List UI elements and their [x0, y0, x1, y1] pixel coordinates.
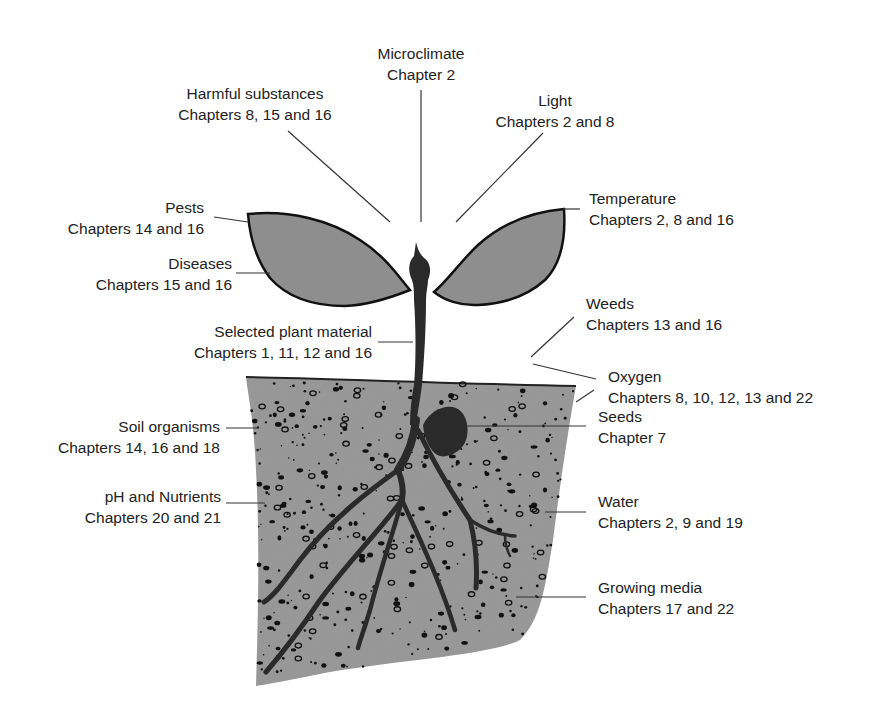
soil-speck — [476, 527, 478, 529]
soil-speck — [546, 544, 548, 546]
label-seeds: Seeds Chapter 7 — [598, 406, 718, 448]
soil-grain — [322, 602, 329, 606]
label-chapters: Chapter 7 — [598, 427, 718, 448]
soil-speck — [417, 648, 419, 650]
soil-grain — [485, 428, 491, 433]
label-chapters: Chapters 20 and 21 — [40, 507, 221, 528]
soil-speck — [461, 496, 463, 498]
leader-weeds — [531, 317, 574, 357]
soil-speck — [309, 637, 311, 639]
leader-light — [456, 133, 543, 222]
soil-grain — [410, 534, 415, 539]
soil-grain — [300, 525, 305, 529]
soil-grain — [362, 536, 366, 541]
soil-speck — [339, 538, 341, 540]
soil-speck — [320, 425, 322, 427]
soil-grain — [422, 633, 428, 638]
soil-speck — [438, 625, 441, 628]
soil-speck — [287, 513, 289, 515]
soil-speck — [263, 617, 265, 619]
soil-grain — [278, 599, 285, 603]
soil-speck — [461, 607, 463, 609]
soil-speck — [405, 597, 406, 598]
soil-grain — [348, 521, 352, 525]
right-leaf — [434, 209, 564, 305]
soil-speck — [329, 514, 331, 516]
soil-speck — [284, 418, 286, 420]
label-name: Harmful substances — [150, 83, 360, 104]
soil-speck — [407, 643, 409, 645]
label-temperature: Temperature Chapters 2, 8 and 16 — [589, 188, 809, 230]
soil-grain — [409, 582, 415, 587]
soil-speck — [261, 668, 263, 670]
soil-grain — [513, 413, 517, 417]
soil-speck — [533, 553, 534, 554]
label-chapters: Chapters 2 and 8 — [470, 111, 640, 132]
soil-grain — [289, 412, 295, 417]
soil-grain — [461, 641, 467, 645]
soil-grain — [545, 438, 549, 443]
soil-grain — [274, 401, 279, 404]
soil-speck — [554, 418, 557, 421]
soil-grain — [335, 652, 342, 657]
soil-speck — [404, 413, 407, 416]
label-chapters: Chapters 17 and 22 — [598, 598, 798, 619]
soil-grain — [444, 647, 449, 651]
soil-grain — [324, 475, 328, 479]
soil-speck — [521, 633, 524, 636]
label-chapters: Chapters 15 and 16 — [20, 274, 232, 295]
soil-speck — [559, 478, 561, 480]
soil-speck — [384, 530, 387, 533]
soil-speck — [276, 670, 279, 673]
soil-speck — [474, 440, 477, 443]
soil-speck — [476, 388, 477, 389]
soil-speck — [499, 477, 502, 480]
soil-speck — [498, 450, 501, 453]
soil-speck — [333, 623, 336, 626]
soil-speck — [362, 388, 364, 390]
soil-speck — [449, 400, 451, 402]
soil-speck — [340, 432, 342, 434]
soil-grain — [500, 588, 506, 591]
soil-grain — [257, 482, 262, 487]
soil-speck — [268, 493, 270, 495]
soil-grain — [482, 570, 489, 573]
soil-grain — [263, 566, 269, 571]
soil-speck — [319, 391, 321, 393]
soil-speck — [402, 542, 404, 544]
soil-speck — [507, 429, 508, 430]
soil-grain — [309, 529, 314, 534]
soil-grain — [322, 616, 329, 619]
label-chapters: Chapters 14, 16 and 18 — [20, 437, 220, 458]
soil-grain — [384, 453, 389, 458]
soil-speck — [258, 510, 261, 513]
soil-speck — [328, 538, 330, 540]
soil-speck — [332, 592, 334, 594]
soil-speck — [277, 472, 279, 474]
label-name: Water — [598, 491, 798, 512]
soil-speck — [429, 536, 431, 538]
soil-grain — [339, 386, 343, 390]
soil-grain — [320, 485, 325, 489]
soil-speck — [551, 497, 552, 498]
soil-speck — [323, 544, 326, 547]
soil-grain — [425, 520, 431, 523]
soil-speck — [351, 629, 354, 632]
soil-grain — [441, 625, 447, 630]
soil-grain — [430, 526, 434, 531]
soil-speck — [537, 455, 539, 457]
label-name: pH and Nutrients — [40, 486, 221, 507]
soil-grain — [531, 445, 538, 448]
soil-speck — [478, 630, 480, 632]
soil-speck — [412, 514, 415, 517]
soil-speck — [260, 448, 261, 449]
soil-grain — [276, 647, 281, 651]
soil-speck — [483, 500, 486, 503]
soil-speck — [360, 483, 362, 485]
soil-grain — [400, 512, 404, 516]
soil-speck — [345, 591, 348, 594]
soil-speck — [310, 507, 312, 509]
soil-grain — [543, 401, 547, 405]
left-leaf — [248, 213, 410, 306]
soil-speck — [290, 386, 291, 387]
